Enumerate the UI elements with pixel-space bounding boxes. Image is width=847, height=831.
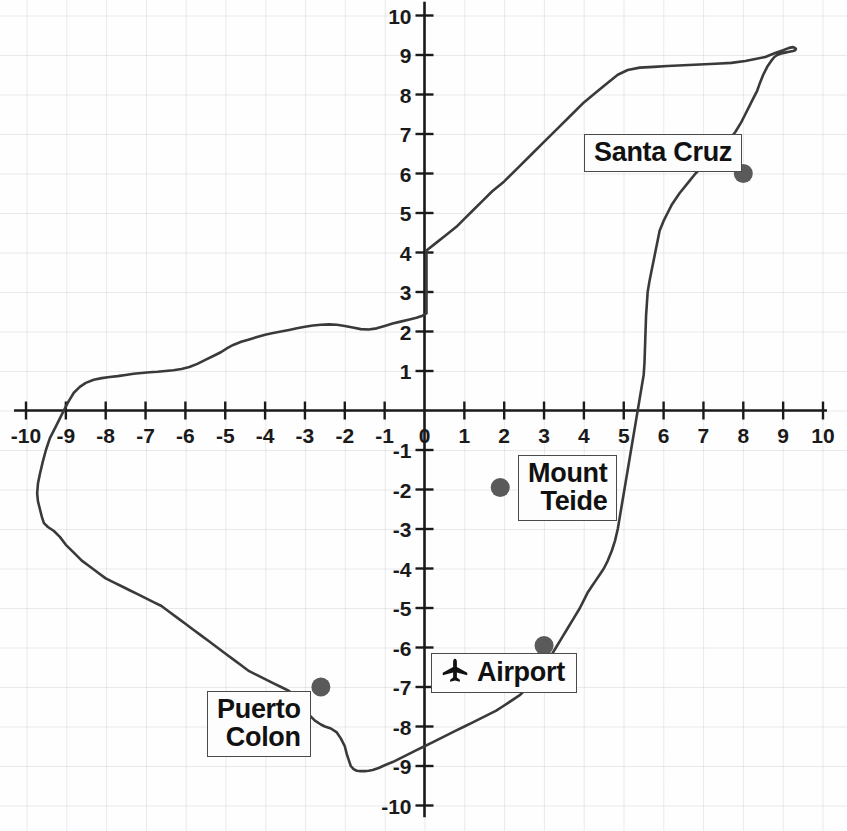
y-tick-label-7: 7 (400, 124, 412, 145)
x-tick-label-9: 9 (777, 425, 789, 446)
x-tick-label-8: 8 (737, 425, 749, 446)
x-tick-label-2: 2 (498, 425, 510, 446)
map-figure: -10-9-8-7-6-5-4-3-2-1012345678910-10-9-8… (0, 0, 847, 831)
map-label-text-airport: Airport (477, 658, 565, 686)
y-tick-label--8: -8 (393, 716, 412, 737)
x-tick-label-3: 3 (538, 425, 550, 446)
x-tick-label--2: -2 (335, 425, 354, 446)
y-tick-label--1: -1 (393, 440, 412, 461)
x-tick-label-0: 0 (419, 425, 431, 446)
y-tick-label--4: -4 (393, 558, 412, 579)
map-label-line: Mount (528, 459, 607, 487)
y-tick-label--6: -6 (393, 637, 412, 658)
y-tick-label-10: 10 (388, 5, 411, 26)
axes-group (14, 2, 827, 818)
map-label-line: Airport (477, 658, 565, 686)
airplane-icon (440, 657, 470, 687)
map-label-text-mount-teide: MountTeide (528, 459, 607, 515)
map-label-line: Puerto (217, 695, 301, 723)
y-tick-label-8: 8 (400, 84, 412, 105)
x-tick-label-10: 10 (811, 425, 834, 446)
map-label-mount-teide[interactable]: MountTeide (518, 455, 617, 521)
map-label-santa-cruz[interactable]: Santa Cruz (584, 134, 742, 172)
coordinate-plot (0, 0, 847, 831)
map-label-text-puerto-colon: PuertoColon (217, 695, 301, 751)
y-tick-label--9: -9 (393, 756, 412, 777)
x-tick-label--8: -8 (96, 425, 115, 446)
y-tick-label--3: -3 (393, 519, 412, 540)
y-tick-label-2: 2 (400, 321, 412, 342)
map-label-line: Teide (528, 487, 607, 515)
x-tick-label--5: -5 (216, 425, 235, 446)
y-tick-label-4: 4 (400, 242, 412, 263)
marker-dot-puerto-colon[interactable] (311, 678, 330, 697)
map-label-text-santa-cruz: Santa Cruz (594, 138, 732, 166)
x-tick-label-1: 1 (459, 425, 471, 446)
x-tick-label-4: 4 (578, 425, 590, 446)
y-tick-label-6: 6 (400, 163, 412, 184)
x-tick-label-5: 5 (618, 425, 630, 446)
map-label-puerto-colon[interactable]: PuertoColon (207, 691, 311, 757)
x-tick-label-7: 7 (698, 425, 710, 446)
y-tick-label-9: 9 (400, 45, 412, 66)
x-tick-label--3: -3 (296, 425, 315, 446)
y-tick-label-5: 5 (400, 203, 412, 224)
x-tick-label--7: -7 (136, 425, 155, 446)
y-tick-label--2: -2 (393, 479, 412, 500)
map-label-line: Colon (217, 723, 301, 751)
map-label-line: Santa Cruz (594, 138, 732, 166)
y-tick-label--10: -10 (381, 795, 411, 816)
x-tick-label--10: -10 (11, 425, 41, 446)
y-tick-label--7: -7 (393, 677, 412, 698)
y-tick-label-1: 1 (400, 361, 412, 382)
x-tick-label--4: -4 (256, 425, 275, 446)
x-tick-label--9: -9 (57, 425, 76, 446)
map-label-airport[interactable]: Airport (431, 653, 577, 693)
x-tick-label-6: 6 (658, 425, 670, 446)
x-tick-label--6: -6 (176, 425, 195, 446)
x-tick-label--1: -1 (375, 425, 394, 446)
y-tick-label-3: 3 (400, 282, 412, 303)
y-tick-label--5: -5 (393, 598, 412, 619)
marker-dot-mount-teide[interactable] (491, 478, 510, 497)
